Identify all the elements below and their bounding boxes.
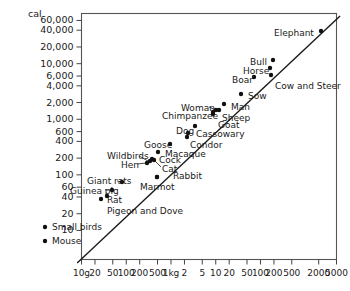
data-point-marker	[99, 197, 103, 201]
x-axis-ticks	[82, 260, 337, 265]
data-point-marker	[269, 73, 273, 77]
data-point-label: Mouse	[52, 237, 81, 246]
data-point-marker	[239, 92, 243, 96]
y-tick-label: 20	[0, 209, 74, 219]
metabolic-rate-scatter-chart: cal. 60,00040,00020,00010,0006,0004,0002…	[0, 0, 350, 291]
data-point-marker	[222, 102, 226, 106]
data-point-label: Dog	[176, 127, 194, 136]
data-point-label: Condor	[190, 141, 222, 150]
data-point-marker	[152, 158, 156, 162]
x-tick-label: 5000	[315, 269, 350, 278]
data-point-label: Sow	[248, 92, 267, 101]
data-point-label: Boar	[232, 76, 253, 85]
y-tick-label: 4,000	[0, 81, 74, 91]
y-tick-label: 20,000	[0, 42, 74, 52]
data-point-label: Bull	[250, 58, 267, 67]
data-point-label: Cow and Steer	[275, 82, 341, 91]
y-tick-label: 40,000	[0, 25, 74, 35]
data-point-label: Cassowary	[196, 130, 245, 139]
y-tick-label: 200	[0, 153, 74, 163]
y-tick-label: 1,000	[0, 114, 74, 124]
data-point-label: Woman	[181, 104, 215, 113]
data-point-label: Giant rats	[87, 177, 132, 186]
y-tick-label: 400	[0, 136, 74, 146]
data-point-label: Marmot	[140, 183, 175, 192]
data-point-marker	[155, 175, 159, 179]
data-point-marker	[271, 58, 275, 62]
data-point-label: Small birds	[52, 223, 102, 232]
data-point-label: Rat	[107, 196, 122, 205]
data-point-label: Pigeon and Dove	[107, 207, 183, 216]
data-point-label: Macaque	[165, 150, 206, 159]
data-point-label: Sheep	[222, 114, 250, 123]
y-tick-label: 10,000	[0, 59, 74, 69]
data-point-marker	[156, 150, 160, 154]
y-tick-label: 100	[0, 170, 74, 180]
data-point-label: Hen	[121, 161, 139, 170]
data-point-label: Horse	[243, 67, 269, 76]
data-point-label: Man	[231, 103, 250, 112]
data-point-label: Goose	[144, 141, 172, 150]
data-point-label: Guinea pig	[70, 187, 119, 196]
y-tick-label: 40	[0, 192, 74, 202]
data-point-marker	[319, 29, 323, 33]
data-point-marker	[43, 239, 47, 243]
data-point-label: Wildbirds	[107, 152, 149, 161]
data-point-label: Elephant	[274, 29, 314, 38]
data-point-label: Rabbit	[173, 172, 202, 181]
data-point-label: Chimpanzee	[162, 112, 218, 121]
y-axis-ticks	[77, 20, 82, 230]
y-tick-label: 2,000	[0, 98, 74, 108]
